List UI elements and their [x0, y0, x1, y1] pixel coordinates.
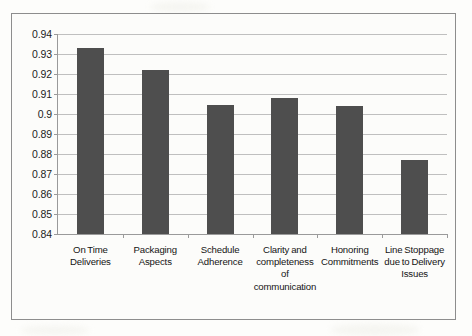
y-tick-label: 0.88 — [12, 149, 52, 160]
y-tick-label: 0.92 — [12, 69, 52, 80]
x-axis-label-line: Honoring — [314, 244, 385, 256]
scan-artifact — [20, 326, 90, 335]
scan-artifact — [330, 324, 420, 336]
x-axis-label-line: Deliveries — [55, 256, 126, 268]
x-axis-label-line: Packaging — [120, 244, 191, 256]
x-tick-mark — [382, 234, 383, 238]
x-axis-label-line: Line Stoppage — [379, 244, 450, 256]
gridline — [58, 34, 447, 35]
scan-artifact — [150, 2, 210, 12]
bar — [142, 70, 169, 234]
x-axis-label-line: communication — [250, 281, 321, 293]
x-tick-mark — [317, 234, 318, 238]
x-axis-label-line: Issues — [379, 268, 450, 280]
x-tick-mark — [253, 234, 254, 238]
x-axis-category-label: Line Stoppagedue to DeliveryIssues — [379, 244, 450, 281]
bar — [77, 48, 104, 234]
plot-area — [58, 34, 447, 234]
x-axis-label-line: Clarity and — [250, 244, 321, 256]
gridline — [58, 174, 447, 175]
y-tick-label: 0.87 — [12, 169, 52, 180]
bar — [336, 106, 363, 234]
y-tick-label: 0.91 — [12, 89, 52, 100]
chart-plot-frame: 0.940.930.920.910.90.890.880.870.860.850… — [11, 13, 456, 320]
bar — [271, 98, 298, 234]
x-axis-label-line: due to Delivery — [379, 256, 450, 268]
bar — [401, 160, 428, 234]
gridline — [58, 54, 447, 55]
x-axis-category-label: HonoringCommitments — [314, 244, 385, 268]
x-axis-category-label: PackagingAspects — [120, 244, 191, 268]
x-axis-category-label: ScheduleAdherence — [185, 244, 256, 268]
x-axis-category-label: Clarity andcompletenessofcommunication — [250, 244, 321, 293]
x-tick-mark — [123, 234, 124, 238]
gridline — [58, 114, 447, 115]
x-axis-label-line: of — [250, 268, 321, 280]
x-axis-label-line: completeness — [250, 256, 321, 268]
gridline — [58, 214, 447, 215]
x-axis-label-line: Adherence — [185, 256, 256, 268]
gridline — [58, 134, 447, 135]
y-tick-label: 0.9 — [12, 109, 52, 120]
y-tick-label: 0.84 — [12, 229, 52, 240]
x-axis-label-line: Commitments — [314, 256, 385, 268]
y-tick-label: 0.93 — [12, 49, 52, 60]
gridline — [58, 154, 447, 155]
y-tick-label: 0.86 — [12, 189, 52, 200]
x-axis-label-line: On Time — [55, 244, 126, 256]
y-tick-label: 0.94 — [12, 29, 52, 40]
y-tick-label: 0.85 — [12, 209, 52, 220]
bar-chart-figure: 0.940.930.920.910.90.890.880.870.860.850… — [0, 0, 472, 336]
x-axis-label-line: Schedule — [185, 244, 256, 256]
gridline — [58, 94, 447, 95]
x-tick-mark — [447, 234, 448, 238]
x-axis-category-label: On TimeDeliveries — [55, 244, 126, 268]
x-axis-label-line: Aspects — [120, 256, 191, 268]
gridline — [58, 194, 447, 195]
gridline — [58, 74, 447, 75]
x-tick-mark — [188, 234, 189, 238]
y-tick-label: 0.89 — [12, 129, 52, 140]
bar — [207, 105, 234, 234]
